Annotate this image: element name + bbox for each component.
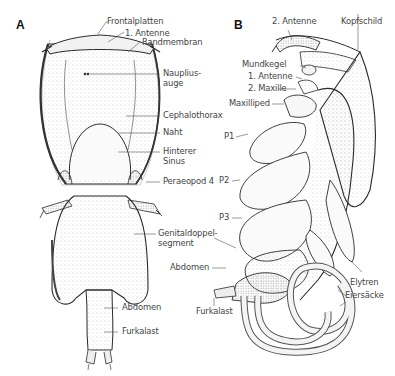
label-p2: P2	[219, 176, 229, 186]
label-hinterer-sinus-2: Sinus	[163, 157, 185, 167]
label-randmembran: Randmembran	[142, 38, 202, 48]
label-abdomen-a: Abdomen	[122, 303, 161, 313]
label-maxilliped: Maxilliped	[229, 99, 270, 109]
panel-label-b: B	[234, 18, 243, 32]
illustration-canvas	[0, 0, 395, 376]
label-kopfschild: Kopfschild	[341, 17, 382, 27]
label-frontalplatten: Frontalplatten	[107, 17, 163, 27]
label-naht: Naht	[163, 128, 182, 138]
label-elytren: Elytren	[350, 278, 379, 288]
specimen-b-lateral	[214, 36, 375, 353]
label-maxille-2: 2. Maxille	[248, 84, 287, 94]
label-cephalothorax: Cephalothorax	[163, 111, 223, 121]
label-antenne-1-b: 1. Antenne	[248, 72, 292, 82]
label-antenne-2: 2. Antenne	[272, 17, 316, 27]
label-p3: P3	[219, 213, 229, 223]
label-furkalast-a: Furkalast	[122, 327, 159, 337]
panel-label-a: A	[16, 18, 25, 32]
label-p1: P1	[224, 132, 234, 142]
label-nauplius-auge-2: auge	[163, 79, 183, 89]
label-mundkegel: Mundkegel	[242, 60, 286, 70]
label-eiersaecke: Eiersäcke	[345, 291, 384, 301]
label-genitaldoppelsegment-2: segment	[158, 239, 194, 249]
label-peraeopod-4: Peraeopod 4	[163, 177, 214, 187]
label-furkalast-b: Furkalast	[196, 307, 233, 317]
label-abdomen-b: Abdomen	[170, 263, 209, 273]
specimen-a-dorsal	[40, 35, 162, 370]
